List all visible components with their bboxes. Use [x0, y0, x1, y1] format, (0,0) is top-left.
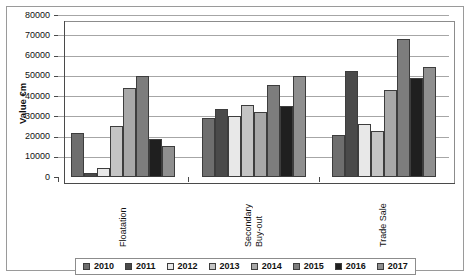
gridline — [58, 35, 449, 36]
gridline — [58, 76, 449, 77]
legend-swatch-icon — [335, 263, 342, 270]
bar — [280, 106, 293, 177]
y-tick-mark — [54, 76, 58, 77]
gridline — [58, 15, 449, 16]
bar — [228, 116, 241, 177]
legend-swatch-icon — [167, 263, 174, 270]
plot-right-border — [454, 21, 455, 184]
category-separator-tick — [319, 177, 320, 182]
bar — [123, 88, 136, 177]
legend-swatch-icon — [209, 263, 216, 270]
y-tick-mark — [54, 56, 58, 57]
bar — [149, 139, 162, 177]
y-tick-label: 30000 — [0, 112, 50, 121]
y-tick-label: 60000 — [0, 51, 50, 60]
x-axis-category-label: Trade Sale — [378, 185, 388, 247]
y-tick-label: 10000 — [0, 152, 50, 161]
bar — [254, 112, 267, 177]
chart-container: Value €m 0100002000030000400005000060000… — [0, 0, 472, 279]
legend-item-2017[interactable]: 2017 — [377, 262, 408, 271]
x-axis-category-label: Secondary — [243, 185, 254, 247]
legend-swatch-icon — [83, 263, 90, 270]
legend-item-2014[interactable]: 2014 — [251, 262, 282, 271]
legend-label: 2010 — [94, 262, 114, 271]
bar — [345, 71, 358, 177]
legend-item-2016[interactable]: 2016 — [335, 262, 366, 271]
legend-label: 2017 — [388, 262, 408, 271]
y-tick-mark — [54, 116, 58, 117]
chart-frame: Value €m 0100002000030000400005000060000… — [6, 6, 464, 271]
plot-top-border — [64, 21, 455, 22]
legend-swatch-icon — [125, 263, 132, 270]
bar — [423, 67, 436, 177]
top-cropped-text — [6, 0, 66, 5]
legend-label: 2016 — [346, 262, 366, 271]
legend-item-2011[interactable]: 2011 — [125, 262, 156, 271]
legend-item-2015[interactable]: 2015 — [293, 262, 324, 271]
gridline — [58, 56, 449, 57]
bar — [371, 131, 384, 177]
legend-label: 2013 — [220, 262, 240, 271]
y-tick-mark — [54, 15, 58, 16]
bar — [332, 135, 345, 177]
x-axis-line — [64, 183, 455, 184]
bar — [71, 133, 84, 177]
y-tick-label: 50000 — [0, 71, 50, 80]
legend-swatch-icon — [251, 263, 258, 270]
bar — [397, 39, 410, 177]
bar — [202, 118, 215, 177]
bar — [267, 85, 280, 177]
bar — [136, 76, 149, 177]
bar — [410, 78, 423, 177]
bar — [358, 124, 371, 177]
bar — [215, 109, 228, 177]
chart-legend: 20102011201220132014201520162017 — [75, 258, 416, 275]
category-separator-tick — [188, 177, 189, 182]
x-axis-category-label: Floatation — [118, 185, 128, 247]
bar — [384, 90, 397, 177]
bar — [84, 173, 97, 177]
y-tick-label: 70000 — [0, 31, 50, 40]
legend-label: 2011 — [136, 262, 156, 271]
y-tick-mark — [54, 35, 58, 36]
bar — [293, 76, 306, 177]
y-tick-label: 80000 — [0, 11, 50, 20]
y-tick-label: 40000 — [0, 92, 50, 101]
bar — [110, 126, 123, 177]
bar — [162, 146, 175, 177]
y-tick-mark — [54, 96, 58, 97]
bar — [97, 168, 110, 177]
x-axis-category-label: Buy-out — [254, 185, 265, 247]
legend-item-2013[interactable]: 2013 — [209, 262, 240, 271]
y-tick-label: 20000 — [0, 132, 50, 141]
legend-swatch-icon — [293, 263, 300, 270]
legend-label: 2015 — [304, 262, 324, 271]
axis-origin-tick — [58, 177, 59, 182]
y-tick-mark — [54, 157, 58, 158]
y-tick-mark — [54, 137, 58, 138]
y-tick-label: 0 — [0, 173, 50, 182]
y-axis-line — [64, 21, 65, 184]
legend-swatch-icon — [377, 263, 384, 270]
legend-item-2010[interactable]: 2010 — [83, 262, 114, 271]
legend-item-2012[interactable]: 2012 — [167, 262, 198, 271]
legend-label: 2014 — [262, 262, 282, 271]
legend-label: 2012 — [178, 262, 198, 271]
bar — [241, 105, 254, 177]
